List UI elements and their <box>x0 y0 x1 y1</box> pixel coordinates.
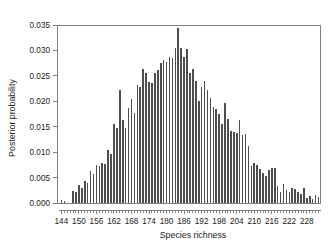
y-tick-label: 0.000 <box>30 199 51 208</box>
bar <box>213 107 215 203</box>
bar <box>291 188 293 203</box>
bar-series <box>61 28 320 203</box>
bar <box>72 191 74 203</box>
bar <box>215 109 217 203</box>
bar <box>306 198 308 203</box>
bar <box>148 82 150 203</box>
bar <box>210 98 212 203</box>
y-tick-label: 0.030 <box>30 46 51 55</box>
y-tick-label: 0.020 <box>30 97 51 106</box>
bar <box>99 166 101 203</box>
bar <box>245 134 247 203</box>
bar <box>259 169 261 203</box>
bar <box>180 48 182 203</box>
bar <box>116 128 118 203</box>
x-tick-label: 150 <box>72 217 86 226</box>
bar <box>204 81 206 203</box>
bar <box>189 73 191 203</box>
bar <box>312 199 314 203</box>
bar <box>286 190 288 203</box>
bar <box>90 171 92 203</box>
bar <box>303 188 305 203</box>
bar <box>163 60 165 203</box>
bar <box>265 176 267 203</box>
bar <box>248 146 250 203</box>
bar <box>195 81 197 203</box>
bar <box>277 186 279 203</box>
x-tick-label: 210 <box>247 217 261 226</box>
x-axis-title: Species richness <box>160 230 227 240</box>
bar <box>78 185 80 203</box>
bar <box>242 135 244 203</box>
bar <box>87 183 89 203</box>
y-tick-label: 0.010 <box>30 148 51 157</box>
bar <box>128 108 130 203</box>
bar <box>253 163 255 203</box>
bar <box>218 114 220 203</box>
bar <box>315 195 317 203</box>
bar <box>230 131 232 203</box>
bar <box>227 119 229 203</box>
x-tick-label: 186 <box>177 217 191 226</box>
bar <box>297 192 299 203</box>
x-tick-label: 216 <box>265 217 279 226</box>
bar <box>81 188 83 203</box>
bar <box>166 62 168 203</box>
bar <box>268 170 270 203</box>
bar <box>160 63 162 203</box>
bar <box>154 73 156 203</box>
bar <box>137 85 139 203</box>
bar <box>183 57 185 203</box>
y-tick-label: 0.015 <box>30 123 51 132</box>
bar <box>172 58 174 203</box>
bar <box>283 184 285 203</box>
y-axis-title: Posterior probability <box>7 79 17 157</box>
bar <box>125 128 127 203</box>
y-axis: 0.0000.0050.0100.0150.0200.0250.0300.035 <box>30 21 58 208</box>
bar <box>289 192 291 203</box>
chart-figure: 0.0000.0050.0100.0150.0200.0250.0300.035… <box>0 0 335 248</box>
bar <box>186 49 188 203</box>
bar <box>318 197 320 203</box>
x-tick-label: 222 <box>282 217 296 226</box>
bar <box>101 163 103 203</box>
x-tick-label: 174 <box>142 217 156 226</box>
y-tick-label: 0.005 <box>30 174 51 183</box>
bar <box>96 165 98 203</box>
bar <box>142 69 144 203</box>
bar <box>119 90 121 203</box>
bar <box>122 120 124 203</box>
bar <box>157 70 159 203</box>
x-tick-label: 228 <box>300 217 314 226</box>
bar <box>177 28 179 203</box>
x-tick-label: 198 <box>212 217 226 226</box>
bar <box>75 192 77 203</box>
x-tick-label: 162 <box>107 217 121 226</box>
bar <box>201 87 203 203</box>
bar <box>84 181 86 203</box>
bar <box>198 101 200 203</box>
posterior-probability-bar-chart: 0.0000.0050.0100.0150.0200.0250.0300.035… <box>0 0 335 248</box>
bar <box>309 196 311 203</box>
bar <box>221 124 223 203</box>
bar <box>262 173 264 203</box>
bar <box>192 69 194 203</box>
bar <box>239 120 241 203</box>
y-tick-label: 0.025 <box>30 72 51 81</box>
bar <box>131 99 133 203</box>
x-tick-label: 204 <box>230 217 244 226</box>
bar <box>294 189 296 203</box>
bar <box>107 150 109 203</box>
bar <box>113 124 115 203</box>
bar <box>233 132 235 203</box>
bar <box>236 133 238 203</box>
x-tick-label: 156 <box>90 217 104 226</box>
x-axis: 1441501561621681741801861921982042102162… <box>55 210 321 226</box>
bar <box>256 165 258 203</box>
bar <box>139 87 141 203</box>
x-tick-label: 144 <box>55 217 69 226</box>
bar <box>300 194 302 203</box>
bar <box>207 90 209 203</box>
bar <box>224 103 226 203</box>
bar <box>271 168 273 203</box>
